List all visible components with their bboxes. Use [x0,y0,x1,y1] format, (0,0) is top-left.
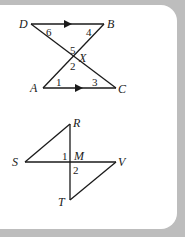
figure-parallel-lines-transversals [31,24,116,88]
angle-label-4: 4 [86,26,92,38]
geometry-diagrams: D B X A C 6 4 5 2 1 3 R S M V T 1 2 [0,0,185,237]
parallel-arrow-icon [75,84,83,92]
point-label-X: X [78,51,87,65]
angle-label-2: 2 [70,60,76,72]
angle-label-5: 5 [70,44,76,56]
point-label-C: C [118,82,127,96]
angle-label-6: 6 [46,26,52,38]
point-label-A: A [29,81,38,95]
point-label-S: S [12,155,18,169]
angle-label-1: 1 [62,150,68,162]
figure-vertical-angles [25,124,116,200]
angle-label-2: 2 [73,164,79,176]
angle-label-1: 1 [56,76,62,88]
point-label-R: R [72,116,81,130]
parallel-arrow-icon [64,20,72,28]
point-label-V: V [118,155,127,169]
point-label-B: B [107,17,115,31]
angle-label-3: 3 [92,76,98,88]
point-label-T: T [58,195,66,209]
point-label-D: D [18,17,28,31]
point-label-M: M [73,149,85,163]
